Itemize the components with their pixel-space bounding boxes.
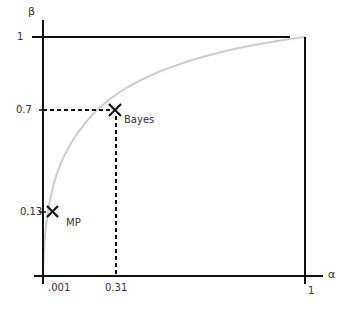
tradeoff-curve — [43, 37, 305, 272]
y-axis-label: β — [28, 6, 35, 17]
bayes-marker — [109, 104, 121, 116]
y-tick-07: 0.7 — [16, 105, 32, 115]
y-tick-013: 0.13 — [20, 207, 42, 217]
x-tick-031: 0.31 — [105, 283, 127, 293]
x-tick-001: .001 — [48, 283, 70, 293]
y-tick-1: 1 — [17, 32, 23, 42]
roc-chart — [0, 0, 350, 310]
x-tick-1: 1 — [308, 286, 314, 296]
x-axis-label: α — [328, 269, 335, 280]
bayes-label: Bayes — [124, 115, 154, 125]
mp-label: MP — [66, 218, 81, 228]
